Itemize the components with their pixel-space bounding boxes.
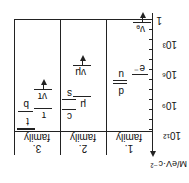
axis-label: M/eV·c⁻² — [151, 159, 188, 169]
label-nu-tau: ντ — [38, 91, 47, 101]
label-tau: τ — [42, 110, 46, 120]
right-border — [14, 19, 15, 155]
tick-mark — [149, 49, 152, 50]
label-strange: s — [67, 88, 72, 98]
upper-bound-arrow-icon — [41, 79, 47, 85]
upper-bound-arrow-icon — [80, 55, 86, 61]
tick-mark — [149, 89, 152, 90]
level-down — [113, 83, 127, 84]
tick-mark — [149, 109, 152, 110]
level-nu-e — [133, 22, 151, 23]
tick-mark — [149, 39, 152, 40]
label-top: t — [26, 116, 29, 126]
tick-mark — [149, 119, 152, 120]
family-1-header: 1.family — [109, 132, 149, 154]
label-charm: c — [67, 111, 72, 121]
tick-mark — [149, 99, 152, 100]
level-strange-bar — [62, 99, 76, 100]
tick-1e12: 10¹² — [163, 130, 181, 140]
level-top — [17, 128, 35, 130]
tick-1e6: 10⁶ — [162, 69, 177, 79]
tick-mark — [149, 59, 152, 60]
level-muon — [73, 96, 91, 97]
tick-1e3: 10³ — [163, 39, 177, 49]
label-nu-mu: νμ — [75, 67, 86, 77]
tick-1e9: 10⁹ — [162, 100, 177, 110]
column-divider-1 — [106, 19, 107, 155]
level-up — [113, 80, 127, 81]
tick-mark — [149, 129, 152, 130]
column-divider-2 — [60, 19, 61, 155]
label-down: d — [118, 86, 124, 96]
tick-mark — [149, 79, 152, 80]
family-2-header: 2.family — [63, 132, 103, 154]
upper-bound-arrow-icon — [140, 12, 146, 18]
label-up: u — [118, 69, 124, 79]
tick-1: 1 — [156, 15, 162, 25]
family-3-header: 3.family — [17, 132, 57, 154]
level-tau — [34, 108, 52, 109]
label-nu-e: νₑ — [136, 24, 145, 34]
level-nu-tau — [34, 89, 52, 90]
fermion-mass-diagram: M/eV·c⁻² 10¹² 10⁹ 10⁶ 10³ 1 1.family 2.f… — [0, 0, 189, 183]
mass-axis — [152, 13, 153, 153]
label-electron: e⁻ — [134, 63, 145, 73]
label-bottom: b — [23, 99, 29, 109]
axis-arrow-icon — [150, 151, 156, 157]
tick-mark — [149, 69, 152, 70]
bottom-border — [15, 19, 153, 20]
level-electron — [132, 74, 148, 75]
level-nu-mu — [73, 65, 91, 66]
level-charm — [62, 109, 76, 110]
tick-mark — [149, 29, 152, 30]
label-muon: μ — [80, 99, 86, 109]
level-bottom — [18, 111, 33, 112]
